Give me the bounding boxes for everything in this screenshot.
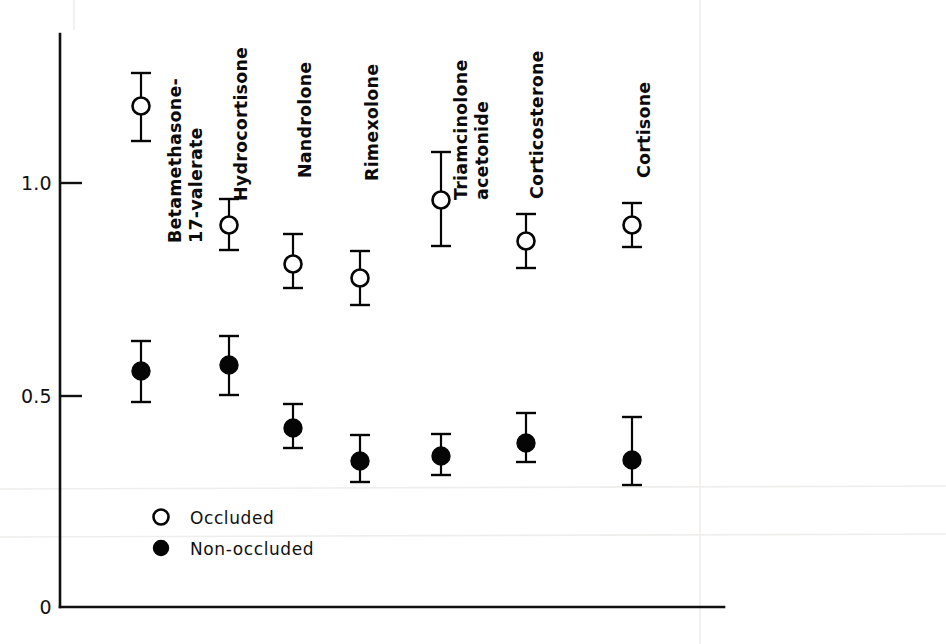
marker-open-circle	[433, 192, 450, 209]
marker-filled-circle	[220, 356, 238, 374]
datapoint-occluded-betamethasone-17-valerate	[131, 73, 151, 141]
category-label-line-2: acetonide	[472, 101, 492, 200]
legend-open-circle-icon	[154, 510, 169, 525]
legend: Occluded Non-occluded	[154, 508, 315, 559]
marker-filled-circle	[284, 419, 302, 437]
datapoint-non-occluded-corticosterone	[516, 413, 536, 462]
category-label-line-1: Cortisone	[634, 82, 654, 178]
category-label-line-1: Nandrolone	[295, 62, 315, 178]
datapoint-non-occluded-cortisone	[622, 417, 642, 485]
legend-label-occluded: Occluded	[190, 508, 274, 528]
datapoint-occluded-cortisone	[622, 203, 642, 247]
category-label-line-1: Betamethasone-	[165, 78, 185, 243]
legend-item-non-occluded: Non-occluded	[154, 539, 315, 559]
datapoint-occluded-triamcinolone-acetonide	[431, 152, 451, 246]
marker-filled-circle	[351, 452, 369, 470]
category-label-line-1: Rimexolone	[362, 64, 382, 181]
datapoint-non-occluded-nandrolone	[283, 404, 303, 448]
marker-open-circle	[518, 233, 535, 250]
category-label-betamethasone-17-valerate: Betamethasone- 17-valerate	[165, 78, 206, 243]
category-label-line-1: Hydrocortisone	[231, 47, 251, 201]
y-tick-label-0-5: 0.5	[21, 385, 52, 407]
y-tick-label-1-0: 1.0	[21, 172, 52, 194]
category-label-triamcinolone-acetonide: Triamcinolone acetonide	[451, 60, 492, 201]
y-tick-label-0: 0	[40, 596, 52, 618]
datapoint-non-occluded-triamcinolone-acetonide	[431, 434, 451, 475]
marker-open-circle	[133, 98, 150, 115]
datapoint-occluded-corticosterone	[516, 214, 536, 268]
series-occluded	[131, 73, 642, 305]
datapoint-non-occluded-betamethasone-17-valerate	[131, 341, 151, 402]
datapoint-occluded-hydrocortisone	[219, 199, 239, 250]
legend-label-non-occluded: Non-occluded	[190, 539, 314, 559]
marker-open-circle	[221, 217, 238, 234]
marker-open-circle	[352, 270, 369, 287]
marker-filled-circle	[623, 451, 641, 469]
y-axis-ticks	[60, 183, 82, 396]
datapoint-non-occluded-rimexolone	[350, 435, 370, 482]
category-label-cortisone: Cortisone	[634, 82, 654, 178]
legend-filled-circle-icon	[154, 541, 169, 556]
marker-filled-circle	[517, 434, 535, 452]
marker-open-circle	[624, 217, 641, 234]
chart-container: 1.0 0.5 0	[0, 0, 946, 644]
category-label-line-1: Corticosterone	[527, 50, 547, 199]
y-axis-tick-labels: 1.0 0.5 0	[21, 172, 52, 618]
category-label-line-1: Triamcinolone	[451, 60, 471, 201]
category-label-line-2: 17-valerate	[186, 127, 206, 243]
series-non-occluded	[131, 336, 642, 485]
category-label-nandrolone: Nandrolone	[295, 62, 315, 178]
marker-filled-circle	[132, 362, 150, 380]
category-label-hydrocortisone: Hydrocortisone	[231, 47, 251, 201]
scatter-plot-with-errorbars: 1.0 0.5 0	[0, 0, 946, 644]
datapoint-occluded-nandrolone	[283, 234, 303, 288]
category-labels: Betamethasone- 17-valerate Hydrocortison…	[165, 47, 654, 243]
legend-item-occluded: Occluded	[154, 508, 275, 528]
datapoint-non-occluded-hydrocortisone	[219, 336, 239, 395]
marker-filled-circle	[432, 447, 450, 465]
category-label-rimexolone: Rimexolone	[362, 64, 382, 181]
marker-open-circle	[285, 256, 302, 273]
datapoint-occluded-rimexolone	[350, 251, 370, 305]
category-label-corticosterone: Corticosterone	[527, 50, 547, 199]
